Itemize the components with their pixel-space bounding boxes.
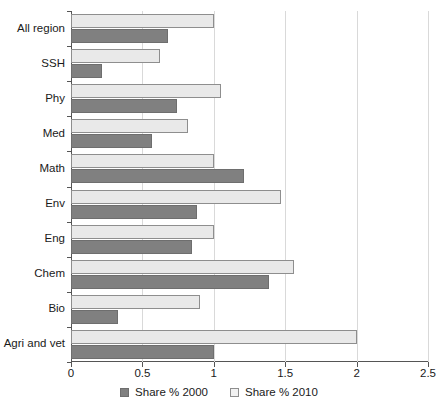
bar-share-2010 [71,190,281,204]
y-axis-tick [67,257,71,258]
bar-share-2000 [71,275,269,289]
bar-share-2000 [71,310,118,324]
bar-share-2010 [71,119,188,133]
x-axis-tick-label: 0 [68,367,74,379]
bar-share-2000 [71,64,102,78]
y-axis-tick [67,116,71,117]
x-axis-tick-label: 1 [211,367,217,379]
bar-share-2010 [71,154,214,168]
legend-label: Share % 2000 [135,386,208,398]
y-axis-label-math: Math [39,162,65,174]
y-axis-label-chem: Chem [34,267,65,279]
bar-share-2000 [71,345,214,359]
bar-share-2000 [71,205,197,219]
bar-share-2000 [71,99,177,113]
plot-area [71,11,428,362]
y-axis-label-env: Env [45,197,65,209]
x-axis-tick-label: 1.5 [277,367,293,379]
bar-share-2010 [71,84,221,98]
y-axis-label-bio: Bio [48,302,65,314]
chart-title-clipped [0,0,438,6]
gridline [285,11,286,362]
x-axis-tick-label: 2.5 [420,367,436,379]
x-axis-tick-label: 2 [353,367,359,379]
gridline [214,11,215,362]
y-axis-category-labels: All regionSSHPhyMedMathEnvEngChemBioAgri… [0,11,65,362]
gridline [428,11,429,362]
bar-share-2010 [71,330,357,344]
y-axis-tick [67,187,71,188]
bar-chart: All regionSSHPhyMedMathEnvEngChemBioAgri… [0,0,438,408]
y-axis-tick [67,292,71,293]
chart-legend: Share % 2000Share % 2010 [0,386,438,398]
bar-share-2000 [71,169,244,183]
legend-item[interactable]: Share % 2010 [230,386,318,398]
bar-share-2010 [71,295,200,309]
legend-swatch-icon [120,388,129,397]
y-axis-label-med: Med [43,127,65,139]
y-axis-tick [67,81,71,82]
y-axis-label-eng: Eng [45,232,65,244]
y-axis-tick [67,11,71,12]
legend-swatch-icon [230,388,239,397]
y-axis-tick [67,151,71,152]
bar-share-2000 [71,29,168,43]
bar-share-2000 [71,240,192,254]
legend-label: Share % 2010 [245,386,318,398]
legend-item[interactable]: Share % 2000 [120,386,208,398]
y-axis-label-phy: Phy [45,92,65,104]
y-axis-label-agri-and-vet: Agri and vet [4,337,65,349]
y-axis-label-ssh: SSH [41,57,65,69]
y-axis-tick [67,46,71,47]
x-axis-tick-label: 0.5 [134,367,150,379]
gridline [142,11,143,362]
bar-share-2000 [71,134,152,148]
x-axis-tick-labels: 00.511.522.5 [0,367,438,383]
bar-share-2010 [71,225,214,239]
y-axis-label-all-region: All region [17,22,65,34]
y-axis-tick [67,327,71,328]
y-axis-tick [67,222,71,223]
gridline [357,11,358,362]
bar-share-2010 [71,49,160,63]
bar-share-2010 [71,260,294,274]
bar-share-2010 [71,14,214,28]
